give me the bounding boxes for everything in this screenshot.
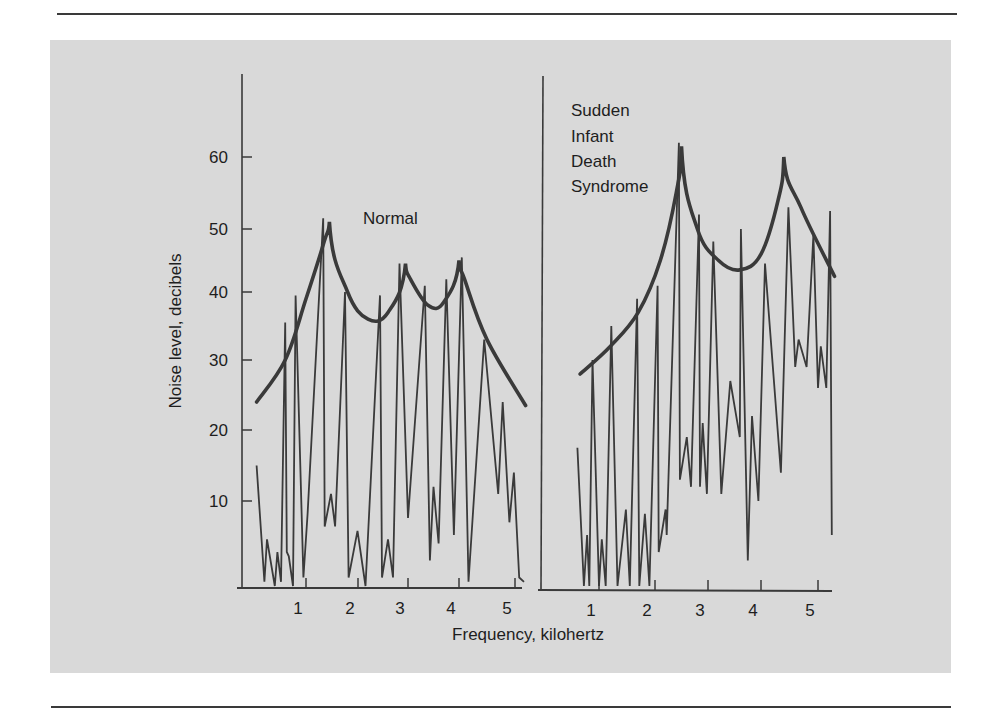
sids-spectrum-line [577,143,831,586]
sids-annotation: Sudden Infant Death Syndrome [571,101,648,196]
normal-annotation: Normal [363,209,418,228]
y-tick-label: 50 [209,220,228,239]
sids-panel: 12345 Sudden Infant Death Syndrome [538,76,835,620]
sids-annotation-line-4: Syndrome [571,177,648,196]
y-tick-label: 10 [209,492,228,511]
x-tick-label: 4 [748,601,757,620]
sids-annotation-line-2: Infant [571,127,614,146]
x-axis-title: Frequency, kilohertz [452,625,604,644]
normal-spectrum-line [257,218,524,586]
x-tick-label: 5 [805,601,814,620]
sids-annotation-line-1: Sudden [571,101,630,120]
y-axis-title: Noise level, decibels [166,254,185,409]
noise-spectrum-chart: 102030405060 12345 Normal 12345 Sudden I… [0,0,999,719]
x-tick-label: 4 [446,599,455,618]
normal-panel: 102030405060 12345 Normal [209,74,526,618]
sids-y-axis [541,76,543,590]
sids-annotation-line-3: Death [571,152,616,171]
x-tick-label: 2 [642,601,651,620]
sids-x-axis-ticks: 12345 [586,580,818,620]
y-tick-label: 20 [209,421,228,440]
x-tick-label: 1 [293,599,302,618]
sids-x-axis [538,590,832,591]
y-tick-label: 60 [209,148,228,167]
normal-x-axis-ticks: 12345 [293,578,515,618]
y-tick-label: 40 [209,283,228,302]
x-tick-label: 5 [502,599,511,618]
x-tick-label: 3 [695,601,704,620]
x-tick-label: 2 [345,599,354,618]
y-axis-ticks: 102030405060 [209,148,252,511]
y-tick-label: 30 [209,351,228,370]
x-tick-label: 1 [586,601,595,620]
x-tick-label: 3 [395,599,404,618]
